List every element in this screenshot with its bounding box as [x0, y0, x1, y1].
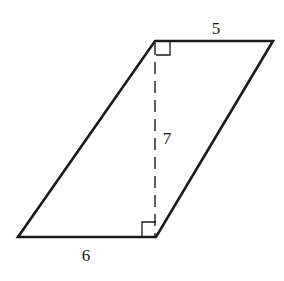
right-angle-marker-bottom — [142, 222, 156, 236]
top-side-label: 5 — [212, 19, 221, 38]
parallelogram-diagram: 5 7 6 — [0, 0, 284, 281]
parallelogram-outline — [18, 41, 273, 237]
right-angle-marker-top — [156, 42, 170, 55]
bottom-side-label: 6 — [82, 246, 91, 265]
height-label: 7 — [163, 129, 172, 148]
